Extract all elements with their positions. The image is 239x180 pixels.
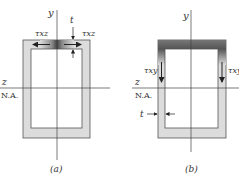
box-section-hollow [165,49,218,128]
thickness-label: t [140,109,144,119]
top-flange-shaded [158,40,226,49]
diagram-canvas: y z N.A. τxz τxz t (a) y z N.A. τxy τxy … [0,0,239,180]
neutral-axis-label: N.A. [135,91,152,100]
panel-b: y z N.A. τxy τxy t (b) [132,10,239,174]
z-axis-label: z [1,77,7,87]
caption-b: (b) [185,164,198,174]
neutral-axis-label: N.A. [1,91,18,100]
thickness-label: t [70,15,74,25]
shear-left-label: τxy [144,66,158,75]
y-axis-label: y [47,7,54,18]
z-axis-label: z [134,77,140,87]
shear-right-label: τxy [228,66,239,75]
box-section-hollow [31,49,82,128]
shear-left-label: τxz [35,29,49,38]
panel-a: y z N.A. τxz τxz t (a) [0,7,110,174]
shear-right-label: τxz [82,29,96,38]
y-axis-label: y [182,10,189,21]
caption-a: (a) [50,164,63,174]
